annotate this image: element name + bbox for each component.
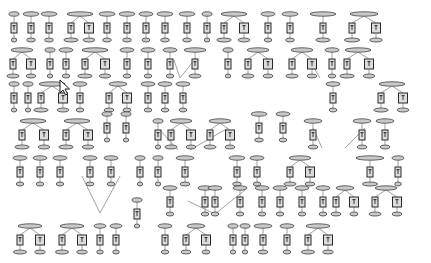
- root-node[interactable]: [289, 156, 311, 160]
- root-node[interactable]: [295, 186, 309, 190]
- attribute-node[interactable]: [86, 182, 94, 186]
- root-node[interactable]: [304, 119, 322, 123]
- attribute-node[interactable]: [344, 38, 359, 42]
- attribute-node[interactable]: [123, 38, 132, 42]
- attribute-node[interactable]: [374, 108, 388, 112]
- attribute-node[interactable]: [25, 108, 31, 112]
- root-node[interactable]: [53, 156, 67, 160]
- root-node[interactable]: [187, 224, 205, 228]
- root-node[interactable]: [20, 119, 46, 123]
- attribute-node[interactable]: [166, 212, 174, 216]
- root-node[interactable]: [99, 12, 115, 16]
- root-node[interactable]: [202, 12, 212, 16]
- root-node[interactable]: [282, 12, 298, 16]
- root-node[interactable]: [280, 224, 294, 228]
- attribute-node[interactable]: [15, 145, 29, 149]
- attribute-node[interactable]: [392, 212, 402, 216]
- root-node[interactable]: [375, 186, 397, 190]
- attribute-node[interactable]: [225, 145, 235, 149]
- attribute-node[interactable]: [45, 38, 54, 42]
- root-node[interactable]: [153, 156, 163, 160]
- attribute-node[interactable]: [103, 38, 112, 42]
- attribute-node[interactable]: [308, 145, 318, 149]
- root-node[interactable]: [310, 12, 336, 16]
- attribute-node[interactable]: [204, 145, 216, 149]
- attribute-node[interactable]: [204, 38, 210, 42]
- attribute-node[interactable]: [34, 108, 48, 112]
- attribute-node[interactable]: [397, 108, 409, 112]
- attribute-node[interactable]: [323, 250, 334, 254]
- root-node[interactable]: [345, 48, 371, 52]
- root-node[interactable]: [240, 224, 250, 228]
- attribute-node[interactable]: [211, 212, 219, 216]
- attribute-node[interactable]: [380, 145, 390, 149]
- root-node[interactable]: [120, 48, 134, 52]
- attribute-node[interactable]: [258, 250, 268, 254]
- root-node[interactable]: [223, 48, 233, 52]
- root-node[interactable]: [135, 156, 145, 160]
- attribute-node[interactable]: [97, 250, 104, 254]
- attribute-node[interactable]: [181, 250, 191, 254]
- root-node[interactable]: [254, 224, 272, 228]
- attribute-node[interactable]: [55, 250, 68, 254]
- attribute-node[interactable]: [166, 74, 174, 78]
- attribute-node[interactable]: [83, 38, 95, 42]
- attribute-node[interactable]: [305, 182, 315, 186]
- attribute-node[interactable]: [82, 145, 94, 149]
- root-node[interactable]: [59, 48, 73, 52]
- attribute-node[interactable]: [316, 38, 330, 42]
- root-node[interactable]: [73, 82, 87, 86]
- root-node[interactable]: [11, 48, 33, 52]
- attribute-node[interactable]: [161, 108, 169, 112]
- root-node[interactable]: [336, 186, 354, 190]
- attribute-node[interactable]: [134, 224, 140, 228]
- root-node[interactable]: [119, 12, 135, 16]
- attribute-node[interactable]: [56, 182, 64, 186]
- root-node[interactable]: [110, 224, 122, 228]
- root-node[interactable]: [9, 12, 19, 16]
- attribute-node[interactable]: [258, 212, 266, 216]
- attribute-node[interactable]: [183, 38, 192, 42]
- attribute-node[interactable]: [47, 74, 53, 78]
- root-node[interactable]: [41, 12, 57, 16]
- root-node[interactable]: [64, 119, 90, 123]
- root-node[interactable]: [229, 156, 245, 160]
- attribute-node[interactable]: [357, 145, 367, 149]
- root-node[interactable]: [158, 224, 172, 228]
- root-node[interactable]: [163, 186, 177, 190]
- root-node[interactable]: [33, 156, 47, 160]
- attribute-node[interactable]: [161, 38, 170, 42]
- root-node[interactable]: [316, 186, 330, 190]
- root-node[interactable]: [250, 156, 264, 160]
- attribute-node[interactable]: [286, 74, 298, 78]
- attribute-node[interactable]: [298, 212, 306, 216]
- root-node[interactable]: [356, 156, 384, 160]
- attribute-node[interactable]: [57, 108, 69, 112]
- attribute-node[interactable]: [113, 250, 120, 254]
- attribute-node[interactable]: [179, 108, 187, 112]
- root-node[interactable]: [251, 112, 267, 116]
- root-node[interactable]: [233, 186, 247, 190]
- attribute-node[interactable]: [137, 182, 143, 186]
- attribute-node[interactable]: [217, 38, 231, 42]
- attribute-node[interactable]: [319, 212, 327, 216]
- attribute-node[interactable]: [161, 250, 169, 254]
- attribute-node[interactable]: [27, 38, 36, 42]
- root-node[interactable]: [376, 119, 394, 123]
- attribute-node[interactable]: [144, 74, 152, 78]
- attribute-node[interactable]: [328, 74, 336, 78]
- attribute-node[interactable]: [13, 250, 26, 254]
- attribute-node[interactable]: [7, 74, 19, 78]
- root-node[interactable]: [94, 224, 106, 228]
- root-node[interactable]: [176, 156, 194, 160]
- root-node[interactable]: [141, 82, 155, 86]
- root-node[interactable]: [325, 48, 339, 52]
- root-node[interactable]: [23, 82, 33, 86]
- attribute-node[interactable]: [329, 108, 337, 112]
- attribute-node[interactable]: [107, 182, 115, 186]
- root-node[interactable]: [228, 224, 238, 228]
- root-node[interactable]: [121, 112, 131, 116]
- attribute-node[interactable]: [230, 250, 236, 254]
- root-node[interactable]: [392, 156, 404, 160]
- root-node[interactable]: [179, 12, 195, 16]
